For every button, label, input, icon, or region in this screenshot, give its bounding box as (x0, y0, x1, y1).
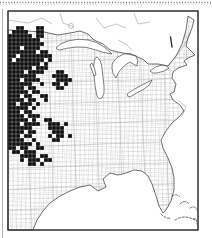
filled-county-cell (40, 154, 44, 158)
filled-county-cell (24, 58, 28, 62)
filled-county-cell (12, 146, 16, 150)
filled-county-cell (56, 134, 60, 138)
filled-county-cell (24, 34, 28, 38)
filled-county-cell (16, 114, 20, 118)
filled-county-cell (28, 126, 32, 130)
filled-county-cell (8, 114, 12, 118)
filled-county-cell (12, 66, 16, 70)
filled-county-cell (12, 126, 16, 130)
filled-county-cell (24, 90, 28, 94)
filled-county-cell (20, 42, 24, 46)
filled-county-cell (28, 150, 32, 154)
filled-county-cell (56, 70, 60, 74)
filled-county-cell (32, 154, 36, 158)
filled-county-cell (64, 78, 68, 82)
filled-county-cell (52, 138, 56, 142)
filled-county-cell (12, 90, 16, 94)
filled-county-cell (12, 94, 16, 98)
filled-county-cell (36, 62, 40, 66)
filled-county-cell (28, 102, 32, 106)
filled-county-cell (12, 74, 16, 78)
filled-county-cell (52, 126, 56, 130)
filled-county-cell (36, 122, 40, 126)
filled-county-cell (64, 82, 68, 86)
filled-county-cell (32, 158, 36, 162)
filled-county-cell (16, 46, 20, 50)
filled-county-cell (24, 42, 28, 46)
filled-county-cell (16, 110, 20, 114)
filled-county-cell (44, 154, 48, 158)
filled-county-cell (64, 122, 68, 126)
filled-county-cell (36, 142, 40, 146)
filled-county-cell (16, 42, 20, 46)
filled-county-cell (12, 150, 16, 154)
filled-county-cell (32, 122, 36, 126)
filled-county-cell (24, 118, 28, 122)
filled-county-cell (32, 42, 36, 46)
filled-county-cell (40, 42, 44, 46)
filled-county-cell (8, 42, 12, 46)
filled-county-cell (16, 106, 20, 110)
filled-county-cell (28, 134, 32, 138)
filled-county-cell (20, 158, 24, 162)
filled-county-cell (12, 110, 16, 114)
filled-county-cell (68, 78, 72, 82)
filled-county-cell (24, 154, 28, 158)
filled-county-cell (20, 154, 24, 158)
filled-county-cell (32, 50, 36, 54)
filled-county-cell (52, 130, 56, 134)
filled-county-cell (20, 118, 24, 122)
filled-county-cell (12, 46, 16, 50)
filled-county-cell (24, 106, 28, 110)
filled-county-cell (12, 54, 16, 58)
filled-county-cell (32, 46, 36, 50)
filled-county-cell (32, 90, 36, 94)
filled-county-cell (16, 50, 20, 54)
filled-county-cell (32, 70, 36, 74)
filled-county-cell (32, 86, 36, 90)
filled-county-cell (32, 162, 36, 166)
filled-county-cell (20, 146, 24, 150)
filled-county-cell (20, 90, 24, 94)
filled-county-cell (24, 62, 28, 66)
filled-county-cell (8, 130, 12, 134)
filled-county-cell (24, 122, 28, 126)
filled-county-cell (16, 126, 20, 130)
filled-county-cell (24, 134, 28, 138)
filled-county-cell (20, 62, 24, 66)
filled-county-cell (32, 62, 36, 66)
filled-county-cell (16, 98, 20, 102)
filled-county-cell (56, 122, 60, 126)
filled-county-cell (32, 138, 36, 142)
filled-county-cell (28, 78, 32, 82)
filled-county-cell (20, 98, 24, 102)
filled-county-cell (16, 38, 20, 42)
filled-county-cell (60, 74, 64, 78)
filled-county-cell (44, 94, 48, 98)
filled-county-cell (48, 54, 52, 58)
filled-county-cell (60, 70, 64, 74)
filled-county-cell (20, 86, 24, 90)
filled-county-cell (16, 78, 20, 82)
filled-county-cell (20, 26, 24, 30)
filled-county-cell (24, 30, 28, 34)
filled-county-cell (20, 138, 24, 142)
filled-county-cell (28, 98, 32, 102)
filled-county-cell (8, 118, 12, 122)
filled-county-cell (36, 90, 40, 94)
filled-county-cell (8, 122, 12, 126)
filled-county-cell (24, 94, 28, 98)
filled-county-cell (8, 86, 12, 90)
filled-county-cell (36, 70, 40, 74)
filled-county-cell (24, 54, 28, 58)
filled-county-cell (16, 94, 20, 98)
filled-county-cell (16, 26, 20, 30)
filled-county-cell (8, 126, 12, 130)
filled-county-cell (48, 126, 52, 130)
filled-county-cell (36, 30, 40, 34)
filled-county-cell (44, 98, 48, 102)
filled-county-cell (28, 86, 32, 90)
filled-county-cell (28, 74, 32, 78)
filled-county-cell (16, 70, 20, 74)
filled-county-cell (24, 126, 28, 130)
